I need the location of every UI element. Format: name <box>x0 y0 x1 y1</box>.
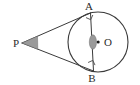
right-angle-marker-a <box>86 15 93 20</box>
label-b: B <box>88 72 95 84</box>
shaded-angle-marker-o <box>89 35 96 49</box>
shaded-angle-marker-p <box>22 36 38 49</box>
center-dot-o <box>97 41 100 44</box>
right-angle-marker-b <box>88 60 95 65</box>
label-p: P <box>13 37 19 49</box>
geometry-canvas: P A B O <box>0 0 140 85</box>
label-a: A <box>85 0 93 12</box>
label-o: O <box>104 36 112 48</box>
geometry-figure: P A B O <box>0 0 140 85</box>
